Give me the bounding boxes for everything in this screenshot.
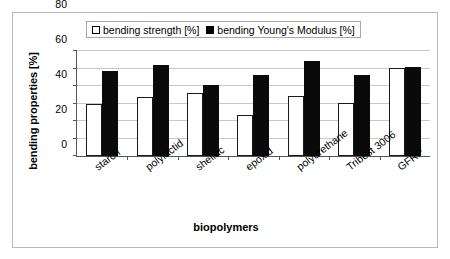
bar-bending-strength [86,104,102,157]
plot-area: 020406080100120 starchpolylactidshellace… [76,51,430,157]
x-tick-mark [329,156,330,160]
bar-bending-strength [389,68,405,156]
legend-entry-bending-strength: bending strength [%] [92,24,199,36]
legend-label-bending-strength: bending strength [%] [103,24,199,36]
bar-youngs-modulus [304,61,320,156]
bar-group [127,51,177,156]
y-tick-label: 80 [55,0,67,10]
bar-youngs-modulus [153,65,169,156]
y-tick-label: 40 [55,68,67,80]
chart-frame: bending strength [%] bending Young's Mod… [12,12,438,248]
open-square-icon [92,26,100,34]
bar-bending-strength [187,93,203,156]
chart-legend: bending strength [%] bending Young's Mod… [86,21,361,38]
bar-group [228,51,278,156]
bar-youngs-modulus [405,67,421,156]
y-tick-label: 0 [61,138,67,150]
x-axis-title: biopolymers [13,221,439,233]
bar-bending-strength [237,115,253,156]
x-tick-mark [279,156,280,160]
filled-square-icon [206,26,214,34]
legend-entry-youngs-modulus: bending Young's Modulus [%] [206,24,354,36]
x-tick-mark [178,156,179,160]
legend-label-youngs-modulus: bending Young's Modulus [%] [217,24,354,36]
x-tick-mark [380,156,381,160]
bar-bending-strength [288,96,304,156]
y-axis-title: bending properties [%] [27,36,39,186]
bar-group [279,51,329,156]
bar-bending-strength [137,97,153,157]
y-tick-label: 20 [55,103,67,115]
bar-youngs-modulus [102,71,118,156]
x-tick-mark [127,156,128,160]
bar-group [178,51,228,156]
bar-group [77,51,127,156]
x-tick-mark [228,156,229,160]
y-tick-label: 60 [55,33,67,45]
